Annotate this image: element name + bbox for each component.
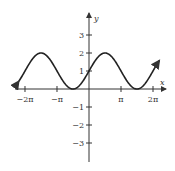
y-tick-label: 1: [79, 67, 84, 76]
y-axis-label: y: [93, 14, 99, 23]
x-axis-label: x: [160, 78, 165, 87]
y-tick-label: −2: [72, 121, 84, 130]
y-tick-label: −3: [72, 139, 84, 148]
x-tick-label: π: [118, 95, 123, 104]
y-tick-label: 3: [79, 31, 84, 40]
x-tick-label: −π: [51, 95, 63, 104]
x-tick-label: 2π: [148, 95, 158, 104]
chart: x y −2π−ππ2π321−1−2−3: [0, 0, 175, 171]
x-tick-label: −2π: [16, 95, 33, 104]
plot-area: x y −2π−ππ2π321−1−2−3: [0, 0, 175, 171]
y-tick-label: −1: [72, 103, 84, 112]
axes: [15, 13, 166, 162]
y-tick-label: 2: [79, 49, 84, 58]
